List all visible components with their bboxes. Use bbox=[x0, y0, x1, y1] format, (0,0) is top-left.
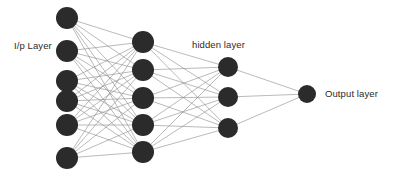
edge bbox=[67, 42, 143, 158]
node-i-p-layer-6 bbox=[56, 147, 78, 169]
edge bbox=[67, 42, 143, 51]
edges-group bbox=[67, 18, 307, 158]
edge bbox=[67, 101, 143, 125]
edge bbox=[67, 42, 143, 81]
edge bbox=[143, 97, 228, 98]
edge bbox=[143, 97, 228, 125]
node-i-p-layer-5 bbox=[56, 114, 78, 136]
node-hidden-1-3 bbox=[132, 87, 154, 109]
edge bbox=[228, 94, 307, 128]
node-i-p-layer-4 bbox=[56, 90, 78, 112]
neural-network-diagram: I/p Layer hidden layer Output layer bbox=[0, 0, 394, 188]
node-hidden-1-1 bbox=[132, 31, 154, 53]
node-hidden-1-5 bbox=[132, 141, 154, 163]
edge bbox=[67, 98, 143, 158]
edge bbox=[143, 67, 228, 98]
edge bbox=[67, 51, 143, 70]
edge bbox=[67, 51, 143, 152]
edge bbox=[143, 97, 228, 152]
edge bbox=[143, 67, 228, 125]
edge bbox=[228, 67, 307, 94]
edge bbox=[143, 125, 228, 128]
node-hidden-layer-2 bbox=[218, 87, 238, 107]
node-hidden-layer-1 bbox=[218, 57, 238, 77]
node-i-p-layer-1 bbox=[56, 7, 78, 29]
edge bbox=[67, 125, 143, 152]
node-output-layer-1 bbox=[298, 85, 316, 103]
output-layer-label: Output layer bbox=[325, 88, 378, 99]
edge bbox=[143, 98, 228, 128]
node-i-p-layer-2 bbox=[56, 40, 78, 62]
node-i-p-layer-3 bbox=[56, 70, 78, 92]
edge bbox=[143, 128, 228, 152]
edge bbox=[143, 70, 228, 128]
node-hidden-layer-3 bbox=[218, 118, 238, 138]
edge bbox=[143, 67, 228, 152]
input-layer-label: I/p Layer bbox=[14, 40, 52, 51]
edge bbox=[67, 98, 143, 125]
node-hidden-1-4 bbox=[132, 114, 154, 136]
edge bbox=[228, 94, 307, 97]
hidden-layer-label: hidden layer bbox=[192, 39, 245, 50]
edge bbox=[143, 70, 228, 97]
edge bbox=[143, 42, 228, 128]
node-hidden-1-2 bbox=[132, 59, 154, 81]
